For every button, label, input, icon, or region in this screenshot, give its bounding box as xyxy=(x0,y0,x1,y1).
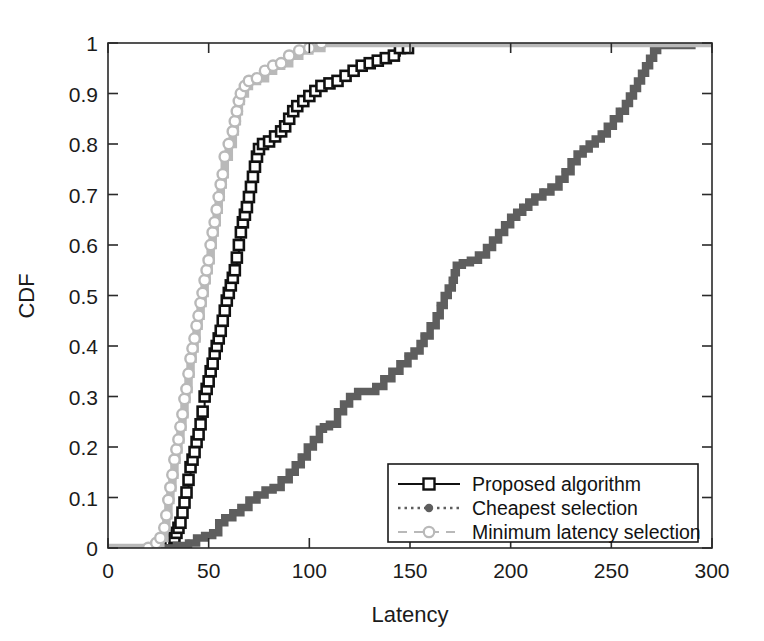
marker-square xyxy=(218,316,228,326)
marker-square xyxy=(177,508,187,518)
marker-circle xyxy=(232,106,242,116)
marker-dot xyxy=(380,375,387,382)
y-tick-label-0.5: 0.5 xyxy=(69,285,98,308)
marker-square xyxy=(194,429,204,439)
marker-circle xyxy=(210,217,220,227)
marker-circle xyxy=(171,444,181,454)
marker-dot xyxy=(598,131,605,138)
marker-circle xyxy=(179,394,189,404)
marker-square xyxy=(184,475,194,485)
marker-dot xyxy=(334,408,341,415)
marker-dot xyxy=(642,62,649,69)
marker-circle xyxy=(284,50,294,60)
y-tick-label-0.7: 0.7 xyxy=(69,184,98,207)
marker-dot xyxy=(449,277,456,284)
y-tick-label-0.6: 0.6 xyxy=(69,234,98,257)
marker-circle xyxy=(207,227,217,237)
legend-marker-square xyxy=(424,479,435,490)
marker-dot xyxy=(298,454,305,461)
marker-circle xyxy=(294,45,304,55)
marker-dot xyxy=(185,540,192,547)
marker-circle xyxy=(212,204,222,214)
marker-circle xyxy=(220,151,230,161)
marker-square xyxy=(242,202,252,212)
marker-dot xyxy=(405,353,412,360)
marker-circle xyxy=(199,275,209,285)
marker-square xyxy=(180,498,190,508)
marker-circle xyxy=(230,116,240,126)
marker-square xyxy=(248,172,258,182)
x-tick-label-300: 300 xyxy=(694,559,729,582)
marker-square xyxy=(182,487,192,497)
marker-dot xyxy=(539,189,546,196)
x-tick-label-0: 0 xyxy=(102,559,114,582)
marker-circle xyxy=(161,510,171,520)
marker-circle xyxy=(159,523,169,533)
legend-label-0: Proposed algorithm xyxy=(472,473,641,495)
marker-dot xyxy=(580,146,587,153)
marker-circle xyxy=(201,265,211,275)
marker-circle xyxy=(167,470,177,480)
marker-circle xyxy=(195,298,205,308)
y-tick-label-1: 1 xyxy=(86,32,98,55)
y-axis-title: CDF xyxy=(14,273,39,318)
y-tick-label-0.4: 0.4 xyxy=(69,335,99,358)
marker-dot xyxy=(421,333,428,340)
marker-dot xyxy=(209,529,216,536)
marker-circle xyxy=(191,321,201,331)
legend-label-1: Cheapest selection xyxy=(472,497,638,519)
marker-square xyxy=(190,447,200,457)
cdf-latency-figure: 050100150200250300 00.10.20.30.40.50.60.… xyxy=(0,0,764,641)
y-tick-label-0: 0 xyxy=(86,537,98,560)
marker-dot xyxy=(519,204,526,211)
legend-marker-dot xyxy=(425,504,433,512)
marker-square xyxy=(236,227,246,237)
marker-dot xyxy=(254,492,261,499)
marker-dot xyxy=(229,509,236,516)
marker-square xyxy=(232,253,242,263)
marker-circle xyxy=(177,409,187,419)
legend: Proposed algorithmCheapest selectionMini… xyxy=(388,464,701,543)
legend-label-2: Minimum latency selection xyxy=(472,521,701,543)
marker-circle xyxy=(185,353,195,363)
marker-square xyxy=(216,326,226,336)
x-tick-label-200: 200 xyxy=(493,559,528,582)
marker-circle xyxy=(189,333,199,343)
marker-dot xyxy=(562,168,569,175)
marker-square xyxy=(196,419,206,429)
legend-marker-circle xyxy=(424,527,434,537)
marker-circle xyxy=(224,139,234,149)
marker-square xyxy=(230,265,240,275)
marker-circle xyxy=(165,482,175,492)
marker-dot xyxy=(630,85,637,92)
marker-square xyxy=(204,376,214,386)
marker-dot xyxy=(616,108,623,115)
marker-square xyxy=(250,162,260,172)
x-tick-label-100: 100 xyxy=(292,559,327,582)
marker-dot xyxy=(483,244,490,251)
marker-square xyxy=(234,240,244,250)
marker-circle xyxy=(197,288,207,298)
y-tick-label-0.9: 0.9 xyxy=(69,83,98,106)
marker-square xyxy=(198,407,208,417)
marker-dot xyxy=(278,476,285,483)
marker-dot xyxy=(316,426,323,433)
marker-square xyxy=(244,192,254,202)
marker-square xyxy=(208,359,218,369)
marker-circle xyxy=(203,255,213,265)
marker-dot xyxy=(459,259,466,266)
marker-circle xyxy=(169,454,179,464)
marker-circle xyxy=(183,369,193,379)
marker-square xyxy=(220,306,230,316)
marker-square xyxy=(246,182,256,192)
y-tick-label-0.3: 0.3 xyxy=(69,386,98,409)
y-tick-label-0.1: 0.1 xyxy=(69,487,98,510)
marker-circle xyxy=(216,179,226,189)
marker-square xyxy=(175,518,185,528)
marker-dot xyxy=(437,302,444,309)
x-axis-title: Latency xyxy=(371,602,448,627)
chart-canvas: 050100150200250300 00.10.20.30.40.50.60.… xyxy=(0,0,764,641)
y-tick-label-0.2: 0.2 xyxy=(69,436,98,459)
marker-circle xyxy=(214,192,224,202)
marker-circle xyxy=(181,384,191,394)
